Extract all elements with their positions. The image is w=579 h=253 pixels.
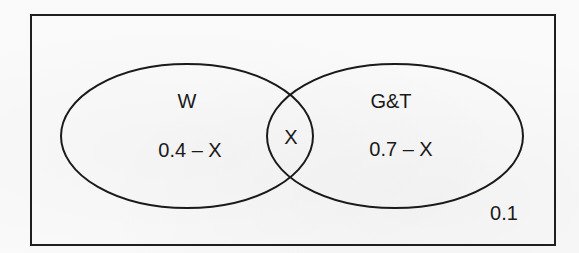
venn-diagram: W 0.4 – X X G&T 0.7 – X 0.1 [0, 0, 579, 253]
set-gt-ellipse [267, 64, 523, 208]
set-w-only-value: 0.4 – X [158, 139, 221, 161]
set-gt-only-value: 0.7 – X [369, 138, 432, 160]
set-gt-label: G&T [370, 90, 411, 112]
intersection-label: X [284, 126, 297, 148]
set-w-label: W [178, 90, 197, 112]
venn-diagram-canvas: W 0.4 – X X G&T 0.7 – X 0.1 [0, 0, 579, 253]
outside-value-label: 0.1 [490, 202, 518, 224]
set-w-ellipse [61, 64, 313, 208]
